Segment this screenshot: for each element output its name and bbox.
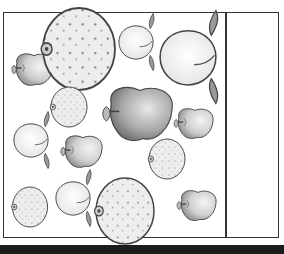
orange-icon bbox=[50, 87, 87, 127]
orange-icon bbox=[12, 187, 48, 227]
orange-icon bbox=[95, 178, 154, 244]
peach-icon bbox=[119, 13, 154, 70]
apple-icon bbox=[103, 88, 173, 141]
orange-icon bbox=[148, 139, 185, 179]
bottom-bar bbox=[0, 245, 284, 254]
apple-icon bbox=[61, 136, 102, 167]
peach-icon bbox=[14, 112, 49, 169]
peach-icon bbox=[160, 11, 217, 104]
apple-icon bbox=[177, 191, 216, 221]
peach-icon bbox=[56, 170, 91, 227]
apple-icon bbox=[174, 109, 213, 139]
fruit-illustration bbox=[0, 0, 284, 254]
orange-icon bbox=[41, 8, 115, 90]
